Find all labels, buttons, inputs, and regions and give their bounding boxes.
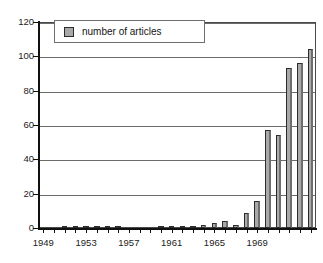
- x-axis-tick: [182, 229, 183, 233]
- x-axis-tick: [129, 229, 130, 233]
- bar: [115, 226, 121, 228]
- x-axis-tick: [289, 229, 290, 233]
- bar: [233, 225, 239, 228]
- bar: [105, 226, 111, 228]
- x-axis-tick: [204, 229, 205, 233]
- bar: [158, 226, 164, 228]
- x-axis-tick: [279, 229, 280, 233]
- x-axis-tick: [140, 229, 141, 233]
- bar: [180, 226, 186, 228]
- x-axis-tick: [97, 229, 98, 233]
- x-axis-label: 1953: [69, 238, 103, 248]
- bar: [94, 226, 100, 228]
- y-axis-label: 120: [6, 17, 34, 26]
- bar: [222, 221, 228, 228]
- x-axis-tick: [54, 229, 55, 233]
- x-axis-tick: [257, 229, 258, 233]
- bar: [201, 225, 207, 228]
- y-axis-label: 0: [6, 223, 34, 232]
- x-axis-tick: [108, 229, 109, 233]
- x-axis-tick: [161, 229, 162, 233]
- x-axis-tick: [236, 229, 237, 233]
- bar: [254, 201, 260, 228]
- y-axis-label: 20: [6, 189, 34, 198]
- x-axis-line: [38, 228, 317, 230]
- x-axis-tick: [75, 229, 76, 233]
- bar: [308, 49, 314, 228]
- x-axis-label: 1965: [197, 238, 231, 248]
- x-axis-label: 1949: [26, 238, 60, 248]
- y-axis-label: 100: [6, 51, 34, 60]
- x-axis-tick: [214, 229, 215, 233]
- x-axis-tick: [193, 229, 194, 233]
- x-axis-tick: [268, 229, 269, 233]
- bar: [62, 226, 68, 228]
- bar: [297, 63, 303, 228]
- bar: [276, 135, 282, 228]
- x-axis-tick: [86, 229, 87, 233]
- bar: [265, 130, 271, 228]
- x-axis-tick: [311, 229, 312, 233]
- y-axis-label: 60: [6, 120, 34, 129]
- x-axis-tick: [118, 229, 119, 233]
- bar-chart: 020406080100120 194919531957196119651969…: [0, 0, 323, 263]
- bar: [83, 226, 89, 228]
- legend-label: number of articles: [82, 27, 161, 37]
- x-axis-tick: [150, 229, 151, 233]
- x-axis-label: 1969: [240, 238, 274, 248]
- x-axis-label: 1961: [155, 238, 189, 248]
- x-axis-tick: [247, 229, 248, 233]
- x-axis-tick: [172, 229, 173, 233]
- bar: [212, 223, 218, 228]
- chart-legend: number of articles: [54, 20, 205, 43]
- x-axis-tick: [43, 229, 44, 233]
- legend-swatch-icon: [64, 27, 74, 37]
- y-axis-label: 80: [6, 86, 34, 95]
- x-axis-tick: [300, 229, 301, 233]
- y-axis-label: 40: [6, 154, 34, 163]
- x-axis-tick: [65, 229, 66, 233]
- bar: [73, 226, 79, 228]
- x-axis-label: 1957: [112, 238, 146, 248]
- bar: [190, 226, 196, 228]
- bar: [286, 68, 292, 228]
- x-axis-tick: [225, 229, 226, 233]
- bar: [244, 213, 250, 228]
- bar-series-number-of-articles: [38, 22, 316, 228]
- bar: [169, 226, 175, 228]
